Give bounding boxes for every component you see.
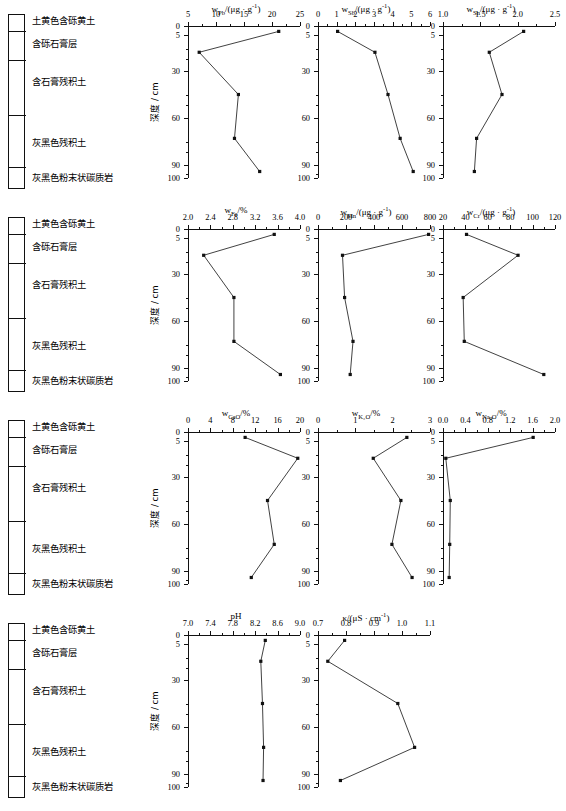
x-tick-label: 0.8: [483, 416, 493, 425]
y-tick-label: 0: [431, 428, 435, 437]
series-line: [474, 31, 523, 171]
depth-axis-title: 深度 / cm: [148, 82, 160, 121]
y-tick: [439, 381, 443, 382]
stratigraphic-column: 土黄色含砾黄土含砾石膏层含石膏残积土灰黑色残积土灰黑色粉末状碳质岩: [8, 14, 158, 189]
y-tick-label: 100: [297, 783, 310, 792]
series-line: [463, 234, 544, 374]
y-tick-label: 0: [176, 22, 180, 31]
chart-row: 土黄色含砾黄土含砾石膏层含石膏残积土灰黑色残积土灰黑色粉末状碳质岩wFe/%2.…: [0, 203, 559, 406]
strat-layer-label: 灰黑色残积土: [32, 544, 86, 554]
strat-boundary: [9, 521, 26, 522]
strat-layer-label: 灰黑色粉末状碳质岩: [32, 579, 113, 589]
x-tick-label: 0.4: [460, 416, 470, 425]
strat-column-bar: [8, 217, 25, 392]
y-tick-label: 100: [422, 377, 435, 386]
chart-panel-na2o: wNa₂O/%0.00.40.81.21.62.005306090100: [425, 406, 566, 609]
chart-row: 土黄色含砾黄土含砾石膏层含石膏残积土灰黑色残积土灰黑色粉末状碳质岩pH7.07.…: [0, 609, 559, 811]
x-tick-label: 20: [439, 213, 447, 222]
y-tick-label: 90: [427, 364, 435, 373]
plot-area-mn: 020040060080005306090100: [318, 229, 430, 381]
y-tick-label: 5: [176, 31, 180, 40]
x-tick-label: 60: [484, 213, 492, 222]
x-tick: [430, 631, 431, 635]
data-point: [266, 499, 269, 502]
y-tick-label: 0: [306, 22, 310, 31]
data-point: [465, 233, 468, 236]
x-tick-label: 2: [353, 10, 357, 19]
strat-layer-label: 灰黑色残积土: [32, 341, 86, 351]
data-point: [250, 576, 253, 579]
data-point: [261, 702, 264, 705]
data-point: [448, 576, 451, 579]
y-tick-label: 5: [176, 640, 180, 649]
data-series-fe: [188, 229, 300, 381]
strat-layer-label: 含砾石膏层: [32, 445, 77, 455]
plot-area-sb: 012345605306090100: [318, 26, 430, 178]
x-tick-label: 1: [353, 416, 357, 425]
y-tick-label: 100: [297, 580, 310, 589]
data-point: [296, 457, 299, 460]
y-tick-label: 100: [422, 174, 435, 183]
data-series-ph: [188, 635, 300, 787]
y-tick-label: 5: [176, 437, 180, 446]
chart-panel-cr: wCr/(μg · g-1)2040608010012005306090100: [425, 203, 566, 406]
x-tick-label: 0.8: [341, 619, 351, 628]
plot-area-pb: 51015202505306090100深度 / cm: [188, 26, 300, 178]
data-point: [259, 660, 262, 663]
y-tick-label: 0: [431, 22, 435, 31]
data-point: [462, 296, 465, 299]
x-tick-label: 1.0: [397, 619, 407, 628]
strat-layer-label: 土黄色含砾黄土: [32, 219, 95, 229]
y-tick: [439, 584, 443, 585]
y-tick-label: 90: [302, 161, 310, 170]
data-series-cao: [188, 432, 300, 584]
x-tick-label: 0.0: [438, 416, 448, 425]
y-tick-label: 60: [427, 114, 435, 123]
y-tick-label: 5: [176, 234, 180, 243]
strat-boundary: [9, 640, 26, 641]
data-point: [343, 296, 346, 299]
plot-area-cr: 2040608010012005306090100: [443, 229, 555, 381]
y-tick-label: 30: [427, 270, 435, 279]
x-tick-label: 3.6: [272, 213, 282, 222]
data-point: [273, 233, 276, 236]
series-line: [204, 234, 281, 374]
y-tick-label: 90: [172, 770, 180, 779]
data-series-cr: [443, 229, 555, 381]
x-tick-label: 80: [506, 213, 514, 222]
x-tick-label: 0: [316, 213, 320, 222]
data-point: [405, 436, 408, 439]
y-tick-label: 90: [302, 567, 310, 576]
data-point: [516, 254, 519, 257]
y-tick-label: 30: [302, 473, 310, 482]
y-tick-label: 0: [306, 631, 310, 640]
x-tick-label: 7.0: [183, 619, 193, 628]
x-tick-label: 600: [396, 213, 409, 222]
y-tick-label: 90: [172, 161, 180, 170]
x-tick-label: 2.0: [550, 416, 560, 425]
strat-boundary: [9, 724, 26, 725]
strat-column-bar: [8, 420, 25, 595]
series-line: [446, 437, 533, 577]
data-point: [396, 702, 399, 705]
data-point: [542, 373, 545, 376]
y-tick-label: 60: [302, 520, 310, 529]
data-point: [232, 340, 235, 343]
y-tick-label: 30: [172, 473, 180, 482]
data-series-sn: [443, 26, 555, 178]
y-tick-label: 5: [306, 31, 310, 40]
x-tick: [555, 225, 556, 229]
strat-boundary: [9, 31, 26, 32]
y-tick-label: 5: [431, 437, 435, 446]
data-point: [386, 93, 389, 96]
data-point: [522, 30, 525, 33]
data-point: [475, 137, 478, 140]
y-tick-label: 60: [172, 723, 180, 732]
y-tick-label: 60: [172, 520, 180, 529]
x-tick-label: 8.6: [272, 619, 282, 628]
y-tick-label: 90: [427, 567, 435, 576]
plot-area-ph: 7.07.47.88.28.69.005306090100深度 / cm: [188, 635, 300, 787]
data-point: [349, 373, 352, 376]
x-tick-label: 120: [549, 213, 562, 222]
chart-row: 土黄色含砾黄土含砾石膏层含石膏残积土灰黑色残积土灰黑色粉末状碳质岩wCaO/%0…: [0, 406, 559, 609]
